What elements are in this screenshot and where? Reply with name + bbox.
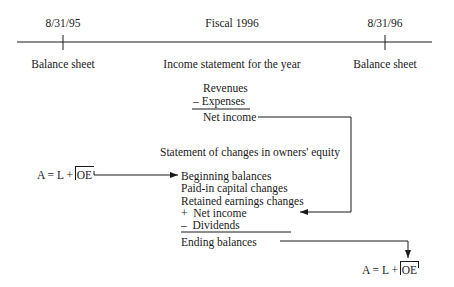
owners-equity-box: OE [401, 264, 418, 276]
income-statement-label: Income statement for the year [163, 58, 300, 70]
end-date: 8/31/96 [367, 17, 402, 29]
owners-equity-box: OE [76, 169, 93, 181]
equity-item: Beginning balances [181, 170, 271, 182]
equity-item: Retained earnings changes [181, 195, 304, 207]
end-equation: A = L + OE [362, 264, 418, 276]
beginning-balance-arrow [94, 171, 178, 175]
ending-balance-arrow [280, 241, 408, 258]
ending-balances-label: Ending balances [181, 236, 257, 248]
owners-equity-label: OE [77, 169, 92, 181]
equation-prefix: A = L + [37, 169, 76, 181]
revenues-label: Revenues [203, 82, 248, 94]
equity-item: – Dividends [181, 219, 240, 231]
start-date: 8/31/95 [45, 17, 80, 29]
equation-prefix: A = L + [362, 264, 401, 276]
equity-item: Paid-in capital changes [181, 182, 288, 194]
start-balance-sheet: Balance sheet [31, 58, 95, 70]
end-balance-sheet: Balance sheet [353, 58, 417, 70]
net-income-label: Net income [203, 111, 256, 123]
equity-item: + Net income [181, 207, 247, 219]
owners-equity-label: OE [402, 264, 417, 276]
expenses-label: – Expenses [193, 95, 245, 107]
start-equation: A = L + OE [37, 169, 93, 181]
period-label: Fiscal 1996 [205, 17, 258, 29]
equity-statement-title: Statement of changes in owners' equity [160, 146, 340, 158]
